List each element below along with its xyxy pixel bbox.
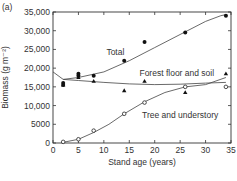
y-tick-label: 5000 <box>31 119 50 129</box>
x-tick-label: 20 <box>150 145 160 155</box>
data-point-tree <box>61 140 65 144</box>
data-point-tree <box>183 85 187 89</box>
x-tick-label: 25 <box>175 145 185 155</box>
label-total: Total <box>106 47 124 57</box>
y-tick-label: 0 <box>45 138 50 148</box>
data-point-forest-floor <box>142 79 146 83</box>
data-point-total <box>143 40 147 44</box>
y-tick-label: 15,000 <box>24 82 50 92</box>
y-tick-label: 35,000 <box>24 7 50 17</box>
data-point-tree <box>122 112 126 116</box>
data-point-total <box>183 31 187 35</box>
y-axis-label: Biomass (g m⁻²) <box>0 46 10 109</box>
x-tick-label: 0 <box>51 145 56 155</box>
label-tree-understory: Tree and understory <box>142 110 219 120</box>
x-tick-label: 30 <box>201 145 211 155</box>
data-point-forest-floor <box>122 88 126 92</box>
data-point-tree <box>224 85 228 89</box>
panel-label: (a) <box>2 2 13 12</box>
y-tick-label: 10,000 <box>24 101 50 111</box>
data-point-forest-floor <box>91 79 95 83</box>
x-tick-label: 10 <box>99 145 109 155</box>
data-point-total <box>122 59 126 63</box>
y-tick-label: 20,000 <box>24 63 50 73</box>
x-tick-label: 15 <box>125 145 135 155</box>
x-axis-label: Stand age (years) <box>108 157 176 167</box>
y-tick-label: 30,000 <box>24 26 50 36</box>
data-point-tree <box>92 129 96 133</box>
data-point-forest-floor <box>183 90 187 94</box>
data-point-total <box>224 14 228 18</box>
data-point-total <box>92 74 96 78</box>
biomass-chart: 051015202530350500010,00015,00020,00025,… <box>0 0 237 181</box>
data-point-tree <box>143 101 147 105</box>
label-forest-floor: Forest floor and soil <box>139 68 214 78</box>
data-point-forest-floor <box>224 71 228 75</box>
x-tick-label: 35 <box>226 145 236 155</box>
y-tick-label: 25,000 <box>24 44 50 54</box>
x-tick-label: 5 <box>76 145 81 155</box>
data-point-tree <box>77 137 81 141</box>
